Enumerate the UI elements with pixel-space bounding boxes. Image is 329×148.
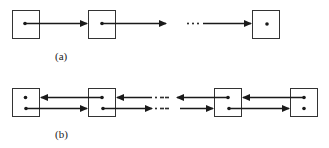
node-b4: [291, 89, 318, 117]
linked-list-diagram: [0, 0, 329, 148]
label-b: (b): [55, 128, 68, 140]
node-b3: [215, 89, 242, 117]
label-a: (a): [55, 50, 67, 62]
node-b2: [89, 89, 116, 117]
node-b1: [13, 89, 40, 117]
